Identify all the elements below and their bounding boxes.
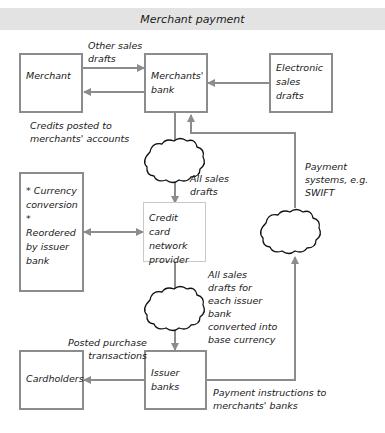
label-payment-instructions: Payment instructions to merchants' banks	[213, 386, 326, 412]
credit-card-network-node: Credit card network provider	[143, 202, 206, 262]
merchant-label: Merchant	[26, 70, 71, 81]
label-payment-systems: Payment systems, e.g. SWIFT	[305, 160, 368, 199]
electronic-sales-drafts-node: Electronic sales drafts	[269, 53, 333, 113]
label-other-sales-drafts: Other sales drafts	[88, 39, 142, 65]
merchant-node: Merchant	[19, 53, 83, 113]
electronic-sales-drafts-label: Electronic sales drafts	[276, 62, 323, 101]
label-all-sales-drafts: All sales drafts	[190, 172, 229, 198]
cardholders-label: Cardholders	[26, 373, 84, 384]
label-posted-purchase: Posted purchase transactions	[68, 336, 147, 362]
cloud-icon	[261, 210, 321, 254]
credit-card-network-label: Credit card network provider	[149, 212, 189, 265]
label-all-sales-drafts-issuer: All sales drafts for each issuer bank co…	[208, 268, 277, 346]
label-credits-posted: Credits posted to merchants' accounts	[30, 119, 129, 145]
merchants-bank-label: Merchants' bank	[151, 70, 203, 95]
cloud-icon	[145, 287, 205, 331]
issuer-banks-node: Issuer banks	[144, 350, 207, 410]
currency-conversion-node: * Currency conversion * Reordered by iss…	[19, 172, 84, 292]
issuer-banks-label: Issuer banks	[151, 367, 179, 392]
merchants-bank-node: Merchants' bank	[144, 53, 208, 113]
currency-conversion-label: * Currency conversion * Reordered by iss…	[26, 185, 78, 266]
